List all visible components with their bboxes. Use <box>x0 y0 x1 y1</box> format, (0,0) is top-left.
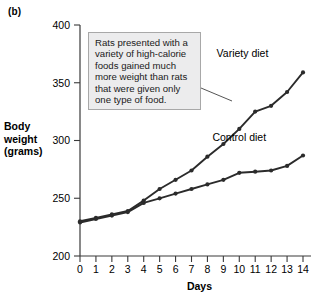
series-data-point <box>110 214 114 218</box>
series-data-point <box>221 178 225 182</box>
series-data-point <box>174 192 178 196</box>
x-tick-label: 1 <box>93 263 99 275</box>
x-tick-label: 12 <box>265 263 277 275</box>
series-data-point <box>205 182 209 186</box>
x-tick-label: 14 <box>297 263 309 275</box>
y-tick-label: 300 <box>52 134 70 146</box>
series-label: Variety diet <box>217 47 269 59</box>
x-tick-label: 0 <box>77 263 83 275</box>
y-tick-label: 400 <box>52 19 70 31</box>
x-tick-label: 7 <box>189 263 195 275</box>
y-axis-ticks: 200250300350400 <box>52 19 80 262</box>
series-data-point <box>205 155 209 159</box>
series-data-point <box>126 210 130 214</box>
x-tick-label: 10 <box>233 263 245 275</box>
series-data-point <box>94 217 98 221</box>
series-label: Control diet <box>212 131 266 143</box>
series-data-point <box>269 168 273 172</box>
series-data-point <box>158 196 162 200</box>
y-tick-label: 350 <box>52 77 70 89</box>
annotation-leader-line <box>201 88 232 101</box>
x-tick-label: 3 <box>125 263 131 275</box>
series-data-point <box>253 170 257 174</box>
chart-figure: (b) Body weight (grams) 200250300350400 … <box>0 0 322 296</box>
series-data-point <box>285 90 289 94</box>
y-tick-label: 200 <box>52 250 70 262</box>
series-data-point <box>174 178 178 182</box>
series-data-point <box>158 187 162 191</box>
series-data-point <box>253 110 257 114</box>
x-tick-label: 11 <box>250 263 261 275</box>
series-data-point <box>285 164 289 168</box>
x-axis-title: Days <box>187 280 212 292</box>
x-tick-label: 9 <box>220 263 226 275</box>
series-data-point <box>301 70 305 74</box>
series-data-point <box>78 220 82 224</box>
series-data-point <box>221 142 225 146</box>
series-data-point <box>301 153 305 157</box>
x-tick-label: 13 <box>281 263 293 275</box>
series-data-point <box>269 104 273 108</box>
x-tick-label: 4 <box>141 263 147 275</box>
y-tick-label: 250 <box>52 192 70 204</box>
x-tick-label: 8 <box>205 263 211 275</box>
x-axis-ticks: 01234567891011121314 <box>77 256 309 275</box>
x-tick-label: 6 <box>173 263 179 275</box>
series-data-point <box>189 187 193 191</box>
annotation-callout: Rats presented with a variety of high-ca… <box>88 32 201 110</box>
series-data-point <box>237 171 241 175</box>
x-tick-label: 2 <box>109 263 115 275</box>
series-data-point <box>189 168 193 172</box>
x-tick-label: 5 <box>157 263 163 275</box>
series-data-point <box>142 201 146 205</box>
